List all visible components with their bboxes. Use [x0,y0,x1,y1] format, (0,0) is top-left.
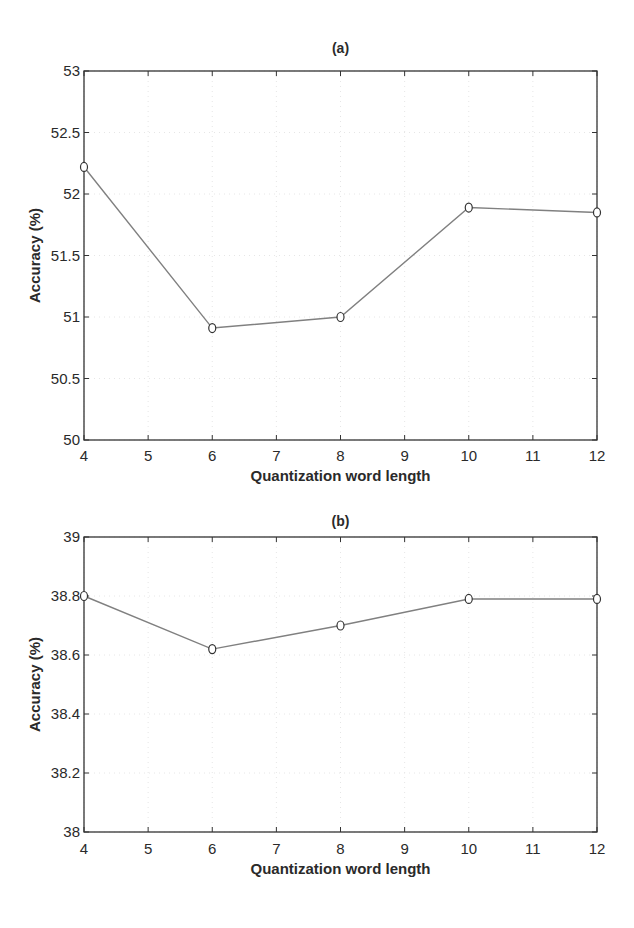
data-point-marker [337,621,344,630]
x-tick-label: 7 [272,840,280,857]
x-tick-label: 5 [144,447,152,464]
x-tick-label: 9 [400,840,408,857]
chart-b: 4567891011123838.238.438.638.839(b)Quant… [26,513,605,877]
data-point-marker [594,208,601,217]
y-tick-label: 38.4 [51,705,80,722]
chart-title: (a) [332,40,349,56]
data-point-marker [81,162,88,171]
y-tick-label: 52 [63,185,80,202]
y-tick-label: 53 [63,62,80,79]
x-axis-label: Quantization word length [251,467,431,484]
x-tick-label: 12 [589,447,606,464]
figure: 4567891011125050.55151.55252.553(a)Quant… [0,0,634,928]
x-tick-label: 4 [80,840,88,857]
x-tick-label: 5 [144,840,152,857]
x-tick-label: 9 [400,447,408,464]
data-point-marker [209,645,216,654]
y-tick-label: 38.8 [51,587,80,604]
x-tick-label: 10 [460,447,477,464]
x-tick-label: 8 [336,840,344,857]
y-tick-label: 38 [63,823,80,840]
y-tick-label: 50 [63,431,80,448]
y-tick-label: 38.2 [51,764,80,781]
x-tick-label: 7 [272,447,280,464]
x-tick-label: 10 [460,840,477,857]
x-axis-label: Quantization word length [251,860,431,877]
chart-title: (b) [332,513,350,529]
data-point-marker [594,594,601,603]
x-tick-label: 6 [208,447,216,464]
y-tick-label: 38.6 [51,646,80,663]
y-axis-label: Accuracy (%) [26,208,43,303]
data-point-marker [81,592,88,601]
y-tick-label: 52.5 [51,124,80,141]
data-point-marker [465,594,472,603]
y-axis-label: Accuracy (%) [26,637,43,732]
x-tick-label: 11 [525,447,541,464]
x-tick-label: 12 [589,840,606,857]
y-tick-label: 51.5 [51,247,80,264]
chart-a: 4567891011125050.55151.55252.553(a)Quant… [26,40,605,484]
data-point-marker [465,203,472,212]
x-tick-label: 4 [80,447,88,464]
y-tick-label: 51 [63,308,80,325]
y-tick-label: 50.5 [51,370,80,387]
x-tick-label: 11 [525,840,541,857]
data-point-marker [209,324,216,333]
data-point-marker [337,313,344,322]
x-tick-label: 8 [336,447,344,464]
x-tick-label: 6 [208,840,216,857]
y-tick-label: 39 [63,528,80,545]
